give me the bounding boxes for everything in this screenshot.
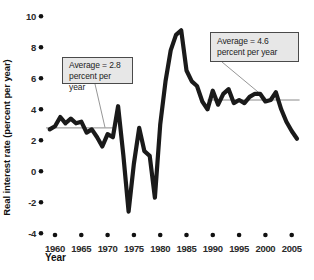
y-tick-label: -4	[28, 228, 37, 239]
x-tick-label: 1995	[229, 243, 250, 254]
y-tick-dot	[39, 107, 44, 112]
x-tick-dot	[211, 233, 216, 238]
y-tick-label: -2	[28, 197, 36, 208]
x-tick-dot	[53, 233, 58, 238]
x-tick-label: 1975	[124, 243, 145, 254]
annotation-text-line: Average = 4.6	[217, 36, 294, 47]
y-tick-label: 2	[31, 135, 36, 146]
x-tick-dot	[79, 233, 84, 238]
x-tick-dot	[237, 233, 242, 238]
x-tick-label: 1970	[98, 243, 118, 254]
x-tick-label: 1980	[150, 243, 170, 254]
x-axis-title: Year	[45, 252, 66, 263]
x-tick-dot	[105, 233, 110, 238]
x-tick-dot	[158, 233, 163, 238]
y-tick-dot	[39, 231, 44, 236]
y-axis-title: Real interest rate (percent per year)	[1, 28, 14, 248]
x-tick-dot	[184, 233, 189, 238]
x-tick-label: 1985	[177, 243, 198, 254]
y-tick-dot	[39, 76, 44, 81]
y-tick-label: 6	[31, 73, 36, 84]
y-tick-label: 0	[31, 166, 36, 177]
x-tick-label: 1965	[71, 243, 92, 254]
x-tick-label: 2005	[282, 243, 303, 254]
annotation-average-2.8: Average = 2.8 percent per year	[62, 57, 133, 84]
x-tick-label: 1990	[203, 243, 223, 254]
real-interest-rate-figure: 1086420-2-419601965197019751980198519901…	[0, 0, 314, 280]
annotation-average-4.6: Average = 4.6 percent per year	[210, 32, 299, 62]
annotation-text-line: percent per year	[69, 71, 128, 93]
y-tick-label: 8	[31, 42, 36, 53]
annotation-text-line: Average = 2.8	[69, 60, 128, 71]
y-tick-dot	[39, 169, 44, 174]
annotation-text-line: percent per year	[217, 47, 294, 58]
y-tick-dot	[39, 200, 44, 205]
y-tick-dot	[39, 45, 44, 50]
y-tick-label: 10	[26, 11, 36, 22]
x-tick-dot	[132, 233, 137, 238]
x-tick-label: 2000	[255, 243, 275, 254]
y-tick-dot	[39, 14, 44, 19]
y-tick-dot	[39, 138, 44, 143]
x-tick-dot	[289, 233, 294, 238]
y-tick-label: 4	[31, 104, 37, 115]
x-tick-dot	[263, 233, 268, 238]
